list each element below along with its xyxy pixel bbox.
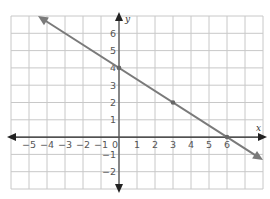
marked-point: [171, 100, 176, 105]
x-tick-label: 1: [134, 139, 140, 150]
marked-point: [117, 66, 122, 71]
y-tick-label: 5: [110, 45, 116, 56]
x-tick-label: 5: [206, 139, 212, 150]
x-axis-label: x: [256, 123, 261, 133]
x-tick-label: −2: [76, 139, 90, 150]
x-tick-label: 4: [188, 139, 194, 150]
x-tick-label: −4: [40, 139, 54, 150]
y-tick-label: −2: [102, 166, 116, 177]
line-end-arrow-icon: [252, 151, 263, 160]
y-axis-label: y: [124, 14, 131, 24]
x-tick-label: 6: [224, 139, 230, 150]
y-tick-label: 1: [110, 114, 116, 125]
marked-point: [225, 135, 230, 140]
y-tick-label: −1: [102, 149, 116, 160]
x-tick-label: 2: [152, 139, 158, 150]
y-tick-label: 3: [110, 80, 116, 91]
coordinate-plane: xy −5−4−3−2−10123456654321−1−2: [0, 0, 270, 199]
y-tick-label: 6: [110, 28, 116, 39]
x-tick-label: −5: [22, 139, 36, 150]
grid: [11, 16, 263, 189]
y-tick-label: 2: [110, 97, 116, 108]
x-tick-label: 3: [170, 139, 176, 150]
x-tick-label: −3: [58, 139, 72, 150]
